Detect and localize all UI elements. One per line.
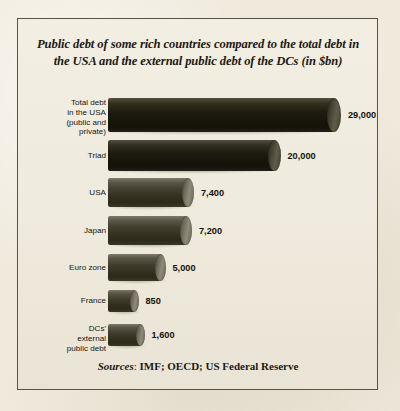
bar-cylinder <box>108 98 341 132</box>
bar-end-cap <box>327 98 341 132</box>
sources-text: IMF; OECD; US Federal Reserve <box>140 360 299 372</box>
bar-end-cap <box>182 178 194 207</box>
chart-bar-row: Triad20,000 <box>18 140 378 171</box>
chart-bar-row: France850 <box>18 290 378 312</box>
bar-cylinder <box>108 254 166 281</box>
bar-end-cap <box>155 254 166 281</box>
bar-body <box>108 98 334 132</box>
bar-end-cap <box>136 324 145 346</box>
bar-end-cap <box>130 290 139 312</box>
bar-value-label: 29,000 <box>348 110 376 120</box>
chart-bar-row: Japan7,200 <box>18 216 378 245</box>
bar-cylinder <box>108 140 281 171</box>
bar-cylinder <box>108 324 145 346</box>
bar-body <box>108 254 160 281</box>
bar-end-cap <box>268 140 281 171</box>
chart-plot-area: Total debt in the USA (public and privat… <box>18 92 378 347</box>
chart-bar-row: DCs' external public debt1,600 <box>18 324 378 346</box>
bar-end-cap <box>180 216 192 245</box>
bar-cylinder <box>108 290 139 312</box>
bar-value-label: 1,600 <box>152 330 175 340</box>
bar-category-label: Total debt in the USA (public and privat… <box>28 98 106 137</box>
chart-title: Public debt of some rich countries compa… <box>30 36 366 70</box>
chart-bar-row: Total debt in the USA (public and privat… <box>18 98 378 132</box>
bar-category-label: USA <box>28 188 106 198</box>
bar-value-label: 20,000 <box>288 151 316 161</box>
bar-body <box>108 140 274 171</box>
chart-sources-note: Sources: IMF; OECD; US Federal Reserve <box>30 360 366 372</box>
bar-body <box>108 178 188 207</box>
chart-figure: Public debt of some rich countries compa… <box>0 0 400 411</box>
bar-value-label: 7,400 <box>201 188 224 198</box>
chart-bar-row: USA7,400 <box>18 178 378 207</box>
bar-value-label: 850 <box>146 296 161 306</box>
bar-value-label: 7,200 <box>199 226 222 236</box>
bar-body <box>108 216 186 245</box>
bar-value-label: 5,000 <box>173 263 196 273</box>
bar-category-label: Triad <box>28 151 106 161</box>
bar-category-label: DCs' external public debt <box>28 324 106 353</box>
bar-cylinder <box>108 178 194 207</box>
chart-bar-row: Euro zone5,000 <box>18 254 378 281</box>
bar-category-label: France <box>28 296 106 306</box>
bar-cylinder <box>108 216 192 245</box>
bar-category-label: Japan <box>28 226 106 236</box>
sources-label: Sources <box>98 360 134 372</box>
bar-category-label: Euro zone <box>28 263 106 273</box>
